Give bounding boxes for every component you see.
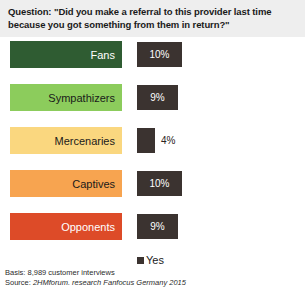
chart-row-captives: Captives 10% [0, 170, 305, 197]
chart-row-fans: Fans 10% [0, 41, 305, 68]
chart-legend: Yes [137, 254, 164, 266]
category-bar-captives: Captives [10, 170, 122, 197]
footer-source-prefix: Source: [5, 278, 33, 287]
category-label: Fans [91, 49, 115, 61]
value-label: 9% [150, 221, 164, 232]
value-label: 10% [149, 49, 169, 60]
chart-row-mercenaries: Mercenaries 4% [0, 127, 305, 154]
chart-row-sympathizers: Sympathizers 9% [0, 84, 305, 111]
category-label: Captives [72, 178, 115, 190]
category-bar-sympathizers: Sympathizers [10, 84, 122, 111]
value-bar-opponents: 9% [137, 214, 178, 239]
chart-row-opponents: Opponents 9% [0, 213, 305, 240]
category-bar-opponents: Opponents [10, 213, 122, 240]
bar-chart-plot: Fans 10% Sympathizers 9% Mercenaries 4% … [0, 37, 305, 250]
footer-source-citation: 2HMforum. research Fanfocus Germany 2015 [33, 278, 186, 287]
category-bar-fans: Fans [10, 41, 122, 68]
category-label: Mercenaries [54, 135, 115, 147]
category-bar-mercenaries: Mercenaries [10, 127, 122, 154]
value-label: 9% [150, 92, 164, 103]
page-title: Question: "Did you make a referral to th… [8, 5, 297, 31]
legend-label-yes: Yes [146, 254, 164, 266]
category-label: Sympathizers [48, 92, 115, 104]
question-title-band: Question: "Did you make a referral to th… [0, 0, 305, 37]
value-label: 10% [149, 178, 169, 189]
footer-notes: Basis: 8,989 customer interviews Source:… [5, 268, 300, 288]
legend-swatch-icon [137, 257, 144, 264]
category-label: Opponents [61, 221, 115, 233]
value-bar-fans: 10% [137, 42, 182, 67]
value-bar-sympathizers: 9% [137, 85, 178, 110]
footer-source: Source: 2HMforum. research Fanfocus Germ… [5, 278, 300, 288]
value-bar-mercenaries [137, 128, 155, 153]
footer-basis: Basis: 8,989 customer interviews [5, 268, 300, 278]
value-bar-captives: 10% [137, 171, 182, 196]
value-label: 4% [161, 128, 175, 153]
